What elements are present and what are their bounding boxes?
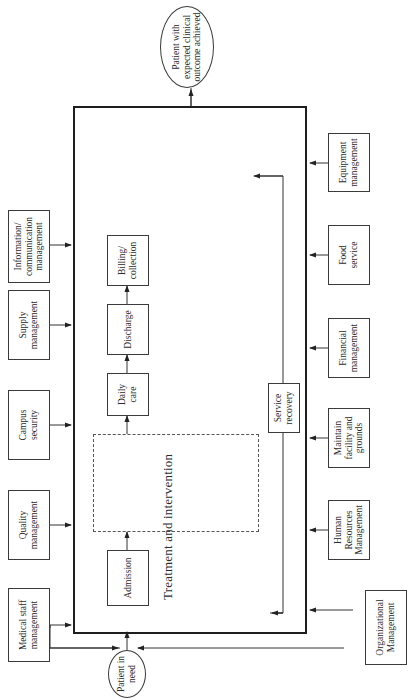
service-recovery-box: Service recovery — [268, 383, 300, 433]
billing-collection-label: Billing/ collection — [117, 241, 139, 281]
quality-management-label: Quality management — [18, 496, 40, 554]
supply-management-box: Supply management — [8, 290, 50, 360]
daily-care-label: Daily care — [117, 376, 139, 413]
daily-care-box: Daily care — [107, 373, 149, 416]
food-service-box: Food service — [328, 225, 370, 285]
medical-staff-management-box: Medical staff management — [8, 588, 50, 662]
financial-management-box: Financial management — [328, 318, 370, 378]
outcome-achieved-node: Patient with expected clinical outcome a… — [160, 6, 214, 88]
organizational-management-box: Organizational Management — [365, 590, 407, 665]
equipment-management-label: Equipment management — [338, 136, 360, 189]
financial-management-label: Financial management — [338, 321, 360, 375]
information-communication-management-label: Information/ communication management — [13, 213, 46, 280]
supply-management-label: Supply management — [18, 296, 40, 354]
service-recovery-label: Service recovery — [273, 388, 295, 428]
campus-security-box: Campus security — [8, 390, 50, 460]
medical-staff-management-label: Medical staff management — [18, 598, 40, 653]
treatment-intervention-box — [93, 434, 259, 532]
patient-in-need-node: Patient in need — [108, 650, 146, 698]
maintain-facility-grounds-label: Maintain facility and grounds — [333, 411, 366, 465]
human-resources-management-box: Human Resources Management — [328, 500, 370, 560]
discharge-box: Discharge — [107, 304, 149, 355]
treatment-intervention-title: Treatment and intervention — [160, 454, 176, 600]
quality-management-box: Quality management — [8, 490, 50, 560]
food-service-label: Food service — [338, 235, 360, 275]
patient-in-need-label: Patient in need — [116, 654, 138, 694]
discharge-label: Discharge — [123, 310, 134, 348]
outcome-achieved-label: Patient with expected clinical outcome a… — [171, 11, 204, 83]
organizational-management-label: Organizational Management — [375, 594, 397, 662]
admission-box: Admission — [107, 550, 149, 606]
maintain-facility-grounds-box: Maintain facility and grounds — [328, 408, 370, 468]
admission-label: Admission — [123, 557, 134, 598]
billing-collection-box: Billing/ collection — [107, 235, 149, 286]
campus-security-label: Campus security — [18, 400, 40, 450]
process-diagram: Patient in need Patient with expected cl… — [0, 0, 420, 700]
equipment-management-box: Equipment management — [328, 133, 370, 192]
human-resources-management-label: Human Resources Management — [333, 503, 366, 557]
information-communication-management-box: Information/ communication management — [8, 210, 50, 283]
